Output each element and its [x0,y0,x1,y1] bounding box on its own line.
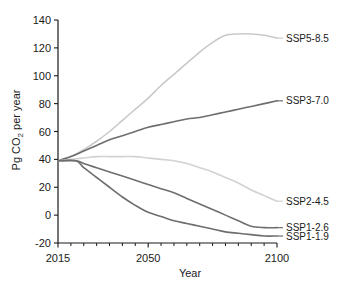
series-line-ssp3-7.0 [58,101,277,161]
series-label-ssp3-7.0: SSP3-7.0 [286,95,329,106]
x-tick-label: 2100 [265,252,289,264]
series-label-ssp2-4.5: SSP2-4.5 [286,196,329,207]
y-tick-label: 60 [39,126,51,138]
series-line-ssp2-4.5 [58,156,277,201]
chart-canvas: -20020406080100120140 201520502100 SSP5-… [0,0,350,281]
y-axis-tick-labels: -20020406080100120140 [33,14,51,249]
y-tick-label: 100 [33,70,51,82]
series-line-ssp5-8.5 [58,34,277,161]
x-tick-label: 2050 [136,252,160,264]
axis-lines [54,20,277,248]
x-tick-label: 2015 [46,252,70,264]
series-label-ssp5-8.5: SSP5-8.5 [286,33,329,44]
y-tick-label: 140 [33,14,51,26]
y-tick-label: 80 [39,98,51,110]
y-tick-label: 120 [33,42,51,54]
y-tick-label: 40 [39,153,51,165]
x-axis-tick-labels: 201520502100 [46,252,289,264]
y-tick-label: 0 [45,209,51,221]
emissions-scenarios-chart: -20020406080100120140 201520502100 SSP5-… [0,0,350,281]
series-line-ssp1-1.9 [58,160,277,236]
series-line-ssp1-2.6 [58,161,277,228]
x-axis-title: Year [179,267,202,279]
y-tick-label: 20 [39,181,51,193]
y-tick-label: -20 [35,237,51,249]
series-lines [58,34,277,236]
series-label-ssp1-1.9: SSP1-1.9 [286,231,329,242]
label-leader-lines [277,38,283,236]
y-axis-title: Pg CO2 per year [10,89,25,170]
series-labels: SSP5-8.5SSP3-7.0SSP2-4.5SSP1-2.6SSP1-1.9 [286,33,329,242]
